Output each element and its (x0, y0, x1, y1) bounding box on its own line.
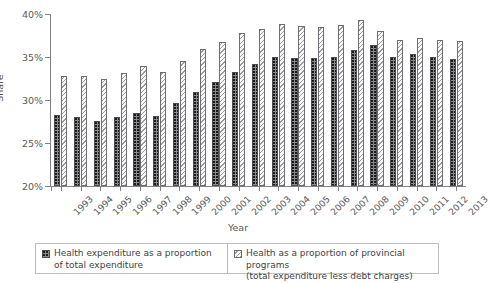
plot-area (51, 14, 466, 186)
bar-1999-series2[interactable] (180, 61, 186, 186)
x-tick-mark (140, 187, 141, 191)
bar-2011-series2[interactable] (417, 38, 423, 186)
bar-2008-series2[interactable] (358, 20, 364, 186)
bar-group (351, 14, 364, 186)
x-tick-mark (298, 187, 299, 191)
bar-1998-series2[interactable] (160, 72, 166, 186)
x-tick-label: 1997 (151, 194, 174, 217)
bar-1996-series2[interactable] (121, 73, 127, 186)
bar-2007-series1[interactable] (331, 57, 337, 186)
bar-1995-series2[interactable] (101, 79, 107, 187)
bar-1999-series1[interactable] (173, 103, 179, 186)
x-tick-mark (397, 187, 398, 191)
bar-group (153, 14, 166, 186)
bar-group (450, 14, 463, 186)
legend-label-total-expenditure: Health expenditure as a proportion of to… (54, 248, 212, 271)
bar-2012-series1[interactable] (430, 57, 436, 186)
bar-1994-series2[interactable] (81, 76, 87, 186)
bar-1997-series2[interactable] (140, 66, 146, 186)
x-tick-mark-origin (51, 187, 52, 191)
x-tick-label: 1999 (190, 194, 213, 217)
bar-group (390, 14, 403, 186)
y-tick-label: 35% (22, 52, 43, 63)
legend-item-total-expenditure[interactable]: Health expenditure as a proportion of to… (36, 244, 228, 273)
bar-2013-series2[interactable] (457, 41, 463, 186)
x-tick-label: 2000 (210, 194, 233, 217)
bar-group (410, 14, 423, 186)
bar-2007-series2[interactable] (338, 25, 344, 186)
bar-2000-series2[interactable] (200, 49, 206, 186)
x-tick-label: 2013 (467, 194, 490, 217)
bar-2005-series2[interactable] (298, 26, 304, 186)
bar-group (430, 14, 443, 186)
bar-group (193, 14, 206, 186)
bar-group (54, 14, 67, 186)
x-tick-mark (456, 187, 457, 191)
bar-1993-series1[interactable] (54, 115, 60, 186)
bar-group (114, 14, 127, 186)
x-tick-mark (239, 187, 240, 191)
bar-1995-series1[interactable] (94, 121, 100, 186)
bar-2010-series1[interactable] (390, 57, 396, 186)
bar-2004-series1[interactable] (272, 57, 278, 186)
legend-label-line1: Health expenditure as a proportion (54, 248, 212, 258)
bar-1998-series1[interactable] (153, 116, 159, 186)
bar-2006-series1[interactable] (311, 58, 317, 186)
legend-label-provincial-programs: Health as a proportion of provincial pro… (246, 248, 433, 283)
bar-group (252, 14, 265, 186)
legend-swatch-hatched-icon (234, 250, 242, 258)
bar-2003-series2[interactable] (259, 29, 265, 186)
x-tick-label: 2008 (368, 194, 391, 217)
bar-2012-series2[interactable] (437, 40, 443, 186)
bar-2002-series2[interactable] (239, 33, 245, 186)
bar-2003-series1[interactable] (252, 64, 258, 186)
bar-1994-series1[interactable] (74, 117, 80, 186)
y-tick-label: 20% (22, 181, 43, 192)
bar-2010-series2[interactable] (397, 40, 403, 186)
bar-2009-series1[interactable] (370, 45, 376, 186)
x-tick-label: 2010 (408, 194, 431, 217)
bar-group (173, 14, 186, 186)
bar-2000-series1[interactable] (193, 92, 199, 186)
bar-1997-series1[interactable] (133, 113, 139, 186)
y-tick-label: 40% (22, 9, 43, 20)
bar-group (291, 14, 304, 186)
x-tick-label: 2012 (447, 194, 470, 217)
bar-group (370, 14, 383, 186)
bar-2004-series2[interactable] (279, 24, 285, 186)
bar-2001-series1[interactable] (212, 82, 218, 186)
x-tick-label: 2006 (328, 194, 351, 217)
bar-group (94, 14, 107, 186)
bar-group (74, 14, 87, 186)
bar-2001-series2[interactable] (219, 42, 225, 186)
x-tick-mark (199, 187, 200, 191)
bar-2006-series2[interactable] (318, 27, 324, 186)
x-tick-mark (81, 187, 82, 191)
legend-label-line2: (total expenditure less debt charges) (246, 271, 433, 283)
bar-2011-series1[interactable] (410, 54, 416, 186)
bar-group (331, 14, 344, 186)
bar-2008-series1[interactable] (351, 50, 357, 186)
x-tick-mark (357, 187, 358, 191)
legend-item-provincial-programs[interactable]: Health as a proportion of provincial pro… (228, 244, 438, 273)
x-tick-label: 1993 (72, 194, 95, 217)
x-tick-mark (61, 187, 62, 191)
bar-1996-series1[interactable] (114, 117, 120, 186)
bar-2005-series1[interactable] (291, 58, 297, 186)
x-tick-label: 1998 (170, 194, 193, 217)
bar-group (232, 14, 245, 186)
x-tick-label: 2003 (269, 194, 292, 217)
chart-legend: Health expenditure as a proportion of to… (35, 243, 439, 274)
y-tick-label: 25% (22, 138, 43, 149)
x-tick-label: 2002 (249, 194, 272, 217)
bar-2002-series1[interactable] (232, 72, 238, 186)
x-tick-mark (436, 187, 437, 191)
x-tick-mark (160, 187, 161, 191)
bar-2013-series1[interactable] (450, 59, 456, 186)
x-tick-mark (259, 187, 260, 191)
bar-1993-series2[interactable] (61, 76, 67, 186)
x-tick-label: 2007 (348, 194, 371, 217)
x-tick-label: 2005 (309, 194, 332, 217)
bar-2009-series2[interactable] (377, 31, 383, 186)
